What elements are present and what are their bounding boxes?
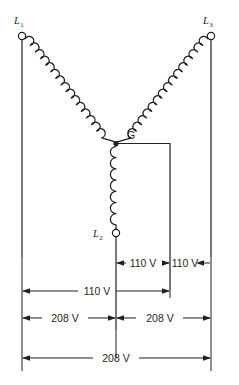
dimension-label-center-to-ground: 110 V [130, 257, 157, 269]
arrow-left-icon [116, 260, 124, 266]
terminal-l1[interactable] [18, 32, 25, 39]
terminal-label-l2-letter: L [92, 228, 99, 239]
arrow-right-icon [108, 315, 116, 321]
winding-g-to-l2 [110, 147, 116, 230]
arrow-right-icon [203, 315, 211, 321]
wiring-diagram: 110 V 110 V 110 V 208 V [0, 0, 239, 385]
terminal-label-l2-subscript: 2 [99, 234, 103, 242]
terminal-l3[interactable] [207, 32, 214, 39]
terminal-label-l1: L1 [13, 15, 24, 29]
dimension-left-to-ground: 110 V [22, 285, 170, 297]
terminal-label-l2: L2 [92, 228, 103, 242]
diagram-canvas: 110 V 110 V 110 V 208 V [0, 0, 239, 385]
arrow-right-icon [203, 355, 211, 361]
terminal-label-l3: L3 [202, 15, 213, 29]
dimension-center-to-ground: 110 V [116, 257, 170, 269]
winding-l1-to-g [25, 36, 114, 141]
dimension-label-left-to-ground: 110 V [84, 285, 111, 297]
arrow-left-icon [22, 315, 30, 321]
dimension-center-to-right: 208 V [116, 312, 211, 324]
dimension-ground-to-right: 110 V [172, 257, 210, 269]
terminal-label-l3-subscript: 3 [209, 21, 213, 29]
dimension-label-left-to-right: 208 V [102, 352, 129, 364]
dimension-left-to-right: 208 V [22, 352, 211, 364]
terminal-label-l1-subscript: 1 [20, 21, 24, 29]
dimension-label-center-to-right: 208 V [146, 312, 173, 324]
arrow-left-icon [116, 315, 124, 321]
winding-l3-to-g [118, 36, 208, 141]
arrow-left-icon [22, 355, 30, 361]
terminal-label-l3-letter: L [202, 15, 209, 26]
arrow-right-icon [162, 288, 170, 294]
arrow-right-icon [162, 260, 170, 266]
terminal-label-l1-letter: L [13, 15, 20, 26]
dimension-left-to-center: 208 V [22, 312, 116, 324]
terminal-l2[interactable] [112, 229, 119, 236]
arrow-left-icon [22, 288, 30, 294]
dimension-label-left-to-center: 208 V [51, 312, 78, 324]
neutral-label-g: G [127, 129, 135, 141]
dimension-label-ground-to-right: 110 V [172, 257, 199, 269]
